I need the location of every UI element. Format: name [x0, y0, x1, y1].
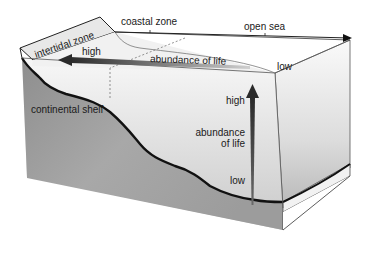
continental-shelf-label: continental shelf [31, 104, 103, 115]
vertical-abundance-label-line2: of life [221, 138, 245, 149]
vertical-low-label: low [230, 175, 246, 186]
ocean-zones-diagram: intertidal zone coastal zone open sea hi… [0, 0, 368, 254]
coastal-zone-label: coastal zone [121, 16, 178, 27]
horizontal-low-label: low [277, 61, 293, 72]
diagram-canvas: intertidal zone coastal zone open sea hi… [0, 0, 368, 254]
horizontal-high-label: high [82, 46, 101, 57]
open-sea-label: open sea [244, 21, 286, 32]
vertical-abundance-label-line1: abundance [196, 127, 246, 138]
vertical-high-label: high [226, 95, 245, 106]
